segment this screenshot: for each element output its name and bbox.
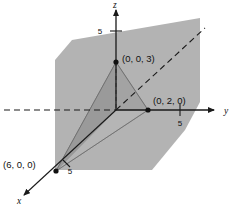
point-label-y-intercept: (0, 2, 0)	[153, 95, 186, 106]
y-axis-label: y	[223, 106, 229, 116]
coordinate-system-figure: z y x 5 5 5 (0, 0, 3) (0, 2, 0) (6, 0, 0…	[0, 0, 238, 215]
y-axis-tick-label-5: 5	[178, 119, 183, 128]
point-z-intercept	[113, 59, 118, 64]
point-y-intercept	[145, 107, 150, 112]
point-label-x-intercept: (6, 0, 0)	[3, 159, 36, 170]
x-axis-tick-label-5: 5	[68, 167, 73, 176]
z-axis-tick-label-5: 5	[98, 27, 103, 36]
point-label-z-intercept: (0, 0, 3)	[122, 53, 155, 64]
point-x-intercept	[53, 168, 58, 173]
z-axis-label: z	[112, 0, 117, 10]
x-axis-label: x	[16, 196, 22, 206]
